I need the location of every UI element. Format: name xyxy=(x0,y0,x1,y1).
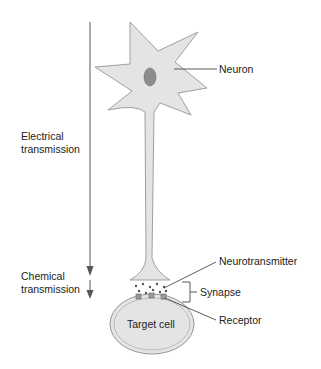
electrical-label-line1: Electrical xyxy=(21,130,64,143)
receptor-label: Receptor xyxy=(219,314,262,327)
chemical-label-line2: transmission xyxy=(21,283,80,296)
neuron-shape xyxy=(95,22,207,280)
synapse-bracket xyxy=(182,282,190,302)
synapse-label: Synapse xyxy=(200,286,241,299)
nucleus xyxy=(144,68,156,86)
target-cell-label: Target cell xyxy=(127,318,175,331)
electrical-label-line2: transmission xyxy=(21,143,80,156)
neurotransmitter-label: Neurotransmitter xyxy=(219,255,297,268)
chemical-arrow xyxy=(87,280,94,299)
chemical-label-line1: Chemical xyxy=(21,270,65,283)
receptors xyxy=(136,293,166,299)
neurotransmitter-dots xyxy=(135,283,167,294)
neuron-diagram xyxy=(0,0,321,369)
electrical-arrow xyxy=(87,22,94,276)
neuron-label: Neuron xyxy=(219,63,253,76)
